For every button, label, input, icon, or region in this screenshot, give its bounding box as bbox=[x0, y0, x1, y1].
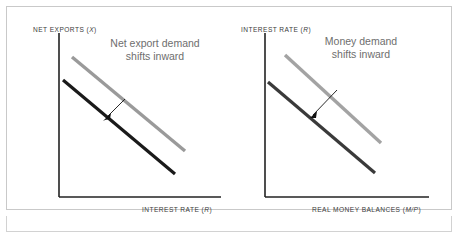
annotation-line-1: Net export demand bbox=[91, 37, 219, 50]
annotation-line-1: Money demand bbox=[297, 35, 425, 48]
y-axis-label-text: INTEREST RATE ( bbox=[241, 26, 303, 33]
annotation-line-2: shifts inward bbox=[297, 48, 425, 61]
x-axis-label-text: INTEREST RATE ( bbox=[142, 206, 204, 213]
y-axis-label-close: ) bbox=[308, 26, 311, 33]
y-axis-label-close: ) bbox=[94, 26, 97, 33]
y-axis-label: NET EXPORTS (X) bbox=[33, 27, 97, 34]
panel-annotation: Net export demand shifts inward bbox=[91, 37, 219, 63]
x-axis-label-close: ) bbox=[209, 206, 212, 213]
shift-arrow-icon bbox=[103, 99, 125, 121]
panel-net-export-demand: NET EXPORTS (X) INTEREST RATE (R) Net ex… bbox=[7, 7, 230, 211]
panel-annotation: Money demand shifts inward bbox=[297, 35, 425, 61]
y-axis-label-text: NET EXPORTS ( bbox=[33, 26, 89, 33]
shifted-demand-curve bbox=[268, 82, 375, 173]
shift-arrow-icon bbox=[308, 90, 337, 120]
panel-money-demand: INTEREST RATE (R) REAL MONEY BALANCES (M… bbox=[223, 7, 446, 211]
x-axis-label-text: REAL MONEY BALANCES ( bbox=[312, 206, 405, 213]
x-axis-label-variable: M/P bbox=[405, 206, 418, 213]
figure-root: NET EXPORTS (X) INTEREST RATE (R) Net ex… bbox=[0, 0, 460, 238]
x-axis-label-close: ) bbox=[418, 206, 421, 213]
figure-footer-strip bbox=[6, 216, 452, 232]
x-axis-label: INTEREST RATE (R) bbox=[142, 207, 212, 214]
x-axis-label: REAL MONEY BALANCES (M/P) bbox=[312, 207, 421, 214]
figure-frame: NET EXPORTS (X) INTEREST RATE (R) Net ex… bbox=[6, 6, 452, 210]
annotation-line-2: shifts inward bbox=[91, 50, 219, 63]
y-axis-label: INTEREST RATE (R) bbox=[241, 27, 311, 34]
original-demand-curve bbox=[285, 55, 381, 143]
